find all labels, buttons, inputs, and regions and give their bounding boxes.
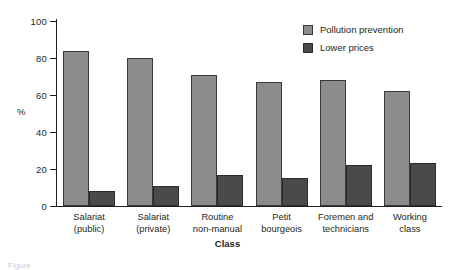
figure-caption: Figure (8, 261, 31, 270)
x-axis-line (56, 206, 442, 207)
bar-prevention-4 (320, 80, 346, 206)
bar-prices-0 (89, 191, 115, 206)
bar-prices-2 (217, 175, 243, 206)
x-axis-category-label: Working class (372, 212, 448, 235)
y-axis-tick (50, 21, 56, 22)
legend-item-lower-prices: Lower prices (303, 40, 403, 55)
bar-prices-5 (410, 163, 436, 206)
y-axis-tick (50, 206, 56, 207)
y-axis-tick-label: 60 (0, 90, 47, 101)
legend-label-pollution-prevention: Pollution prevention (320, 24, 403, 35)
y-axis-label: % (17, 106, 25, 117)
x-axis-label: Class (0, 238, 455, 249)
bar-prices-4 (346, 165, 372, 206)
legend-swatch-icon-pollution-prevention (303, 25, 313, 35)
bar-prevention-3 (256, 82, 282, 206)
bar-prices-1 (153, 186, 179, 206)
chart-legend: Pollution prevention Lower prices (303, 22, 403, 58)
y-axis-tick-label: 0 (0, 201, 47, 212)
y-axis-tick-label: 20 (0, 164, 47, 175)
y-axis-tick (50, 169, 56, 170)
y-axis-tick-label: 40 (0, 127, 47, 138)
legend-item-pollution-prevention: Pollution prevention (303, 22, 403, 37)
bar-prices-3 (282, 178, 308, 206)
legend-swatch-icon-lower-prices (303, 43, 313, 53)
y-axis-tick (50, 95, 56, 96)
y-axis-tick (50, 132, 56, 133)
bar-prevention-1 (127, 58, 153, 206)
chart-figure: 020406080100 % Salariat (public)Salariat… (0, 0, 455, 270)
y-axis-tick-label: 100 (0, 16, 47, 27)
legend-label-lower-prices: Lower prices (320, 42, 374, 53)
bar-prevention-2 (191, 75, 217, 206)
bar-prevention-0 (63, 51, 89, 206)
y-axis-tick-label: 80 (0, 53, 47, 64)
y-axis-tick (50, 58, 56, 59)
bar-prevention-5 (384, 91, 410, 206)
